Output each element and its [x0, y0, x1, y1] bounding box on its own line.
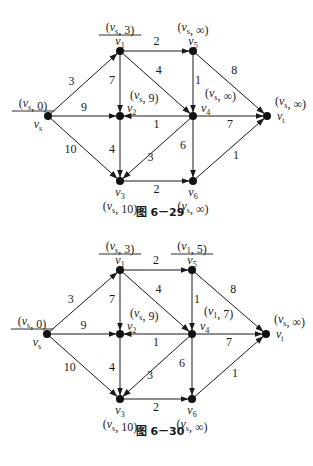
node-name-v4: v4 [200, 319, 209, 335]
edge-weight: 4 [155, 282, 161, 296]
diagram-canvas: 3910274143187621vs(vs, 0)v1(vs, 3)v2(vs,… [0, 0, 313, 466]
edge-weight: 9 [81, 318, 87, 332]
node-name-v6: v6 [187, 403, 196, 419]
edge-weight: 7 [226, 335, 232, 349]
node-label-v5: (v1, 5) [177, 239, 206, 256]
edge-weight: 2 [153, 400, 159, 414]
figure-6-30: 3910274143187621vs(vs, 0)v1(vs, 3)v2(vs,… [11, 239, 305, 438]
node-v2 [116, 112, 124, 120]
edge-weight: 2 [153, 253, 159, 267]
edge-weight: 3 [68, 292, 74, 306]
node-label-v1: (vs, 3) [106, 239, 134, 256]
node-label-vs: (vs, 0) [19, 96, 47, 113]
edge-weight: 7 [109, 73, 115, 87]
edge-weight: 7 [109, 292, 115, 306]
edge-weight: 3 [147, 368, 153, 382]
node-label-v3: (vs, 10) [103, 417, 137, 434]
edge-weight: 3 [68, 74, 74, 88]
node-name-vt: vt [276, 327, 284, 343]
node-label-v1: (vs, 3) [106, 20, 134, 37]
node-v4 [188, 330, 196, 338]
node-v2 [116, 330, 124, 338]
node-label-v4: (v1, 7) [204, 304, 233, 321]
edge-weight: 6 [180, 138, 186, 152]
edge-weight: 8 [230, 282, 236, 296]
node-label-v2: (vs, 9) [130, 306, 158, 323]
edge-weight: 4 [156, 63, 162, 77]
node-v6 [189, 177, 197, 185]
edge-weight: 1 [153, 335, 159, 349]
node-vt [262, 330, 270, 338]
figure-caption: 图 6－30 [136, 425, 185, 438]
node-v3 [116, 177, 124, 185]
edge-weight: 10 [64, 142, 76, 156]
node-name-v4: v4 [201, 101, 210, 117]
node-name-vs: vs [33, 335, 41, 351]
node-label-v2: (vs, 9) [130, 88, 158, 105]
node-label-v3: (vs, 10) [103, 199, 137, 216]
edge-weight: 6 [179, 356, 185, 370]
node-name-v3: v3 [115, 403, 124, 419]
edge-weight: 10 [64, 360, 76, 374]
edge-weight: 1 [232, 366, 238, 380]
node-label-v4: (vs, ∞) [205, 86, 236, 103]
node-name-v2: v2 [127, 101, 136, 117]
node-v6 [188, 395, 196, 403]
edge-weight: 2 [154, 182, 160, 196]
node-name-v2: v2 [127, 319, 136, 335]
edge-weight: 4 [109, 360, 115, 374]
edge-weight: 1 [195, 73, 201, 87]
node-v3 [116, 395, 124, 403]
edge-vs-v3 [48, 116, 117, 178]
figure-6-29: 3910274143187621vs(vs, 0)v1(vs, 3)v2(vs,… [12, 20, 306, 219]
node-label-v5: (vs, ∞) [177, 20, 208, 37]
edge-weight: 1 [194, 292, 200, 306]
node-vs [44, 112, 52, 120]
edge-weight: 1 [233, 148, 239, 162]
edge-weight: 7 [227, 117, 233, 131]
edge-vs-v3 [47, 334, 117, 396]
node-vs [43, 330, 51, 338]
node-name-vs: vs [34, 117, 42, 133]
figure-caption: 图 6－29 [136, 206, 185, 219]
node-v4 [189, 112, 197, 120]
node-name-v3: v3 [115, 185, 124, 201]
edge-weight: 9 [81, 100, 87, 114]
edge-weight: 1 [154, 117, 160, 131]
edge-weight: 4 [109, 142, 115, 156]
edge-weight: 3 [148, 150, 154, 164]
node-name-vt: vt [277, 109, 285, 125]
node-vt [263, 112, 271, 120]
edge-weight: 2 [154, 34, 160, 48]
edge-weight: 8 [231, 63, 237, 77]
node-label-vs: (vs, 0) [18, 314, 46, 331]
node-name-v6: v6 [188, 185, 197, 201]
